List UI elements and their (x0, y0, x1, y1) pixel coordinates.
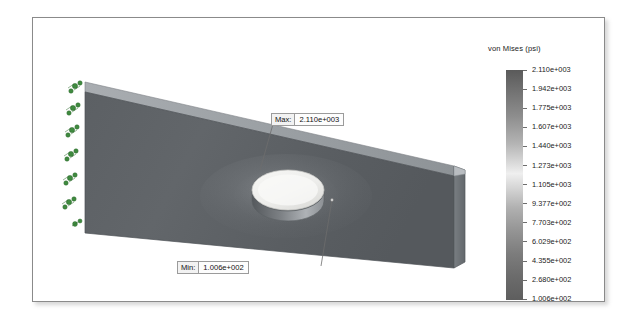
plate-with-hole-model (33, 18, 473, 301)
min-callout[interactable]: Min: 1.006e+002 (177, 261, 249, 274)
max-callout[interactable]: Max: 2.110e+003 (271, 113, 344, 126)
tick-mark-icon (523, 127, 527, 128)
tick-mark-icon (523, 89, 527, 90)
legend-tick-label: 1.105e+003 (532, 180, 571, 189)
tick-mark-icon (523, 108, 527, 109)
legend-tick-label: 1.775e+003 (532, 103, 571, 112)
fixture-restraint-symbols (62, 81, 82, 227)
min-callout-tag: Min: (178, 262, 199, 273)
model-viewport[interactable]: Max: 2.110e+003 Min: 1.006e+002 (33, 18, 473, 301)
tick-mark-icon (523, 203, 527, 204)
legend-tick-label: 9.377e+002 (532, 199, 571, 208)
plate-end-face (454, 166, 465, 268)
tick-mark-icon (523, 165, 527, 166)
legend-tick-label: 4.355e+002 (532, 256, 571, 265)
legend-tick-label: 1.440e+003 (532, 141, 571, 150)
fea-result-panel: Max: 2.110e+003 Min: 1.006e+002 von Mise… (32, 17, 605, 302)
min-callout-value: 1.006e+002 (199, 262, 247, 273)
tick-mark-icon (523, 299, 527, 300)
tick-mark-icon (523, 261, 527, 262)
stress-legend: von Mises (psi) 2.110e+003 1.942e+003 1.… (480, 26, 604, 298)
legend-tick-label: 6.029e+002 (532, 237, 571, 246)
legend-title: von Mises (psi) (488, 44, 541, 53)
tick-mark-icon (523, 70, 527, 71)
tick-mark-icon (523, 280, 527, 281)
max-callout-tag: Max: (272, 114, 295, 125)
colorbar-wrapper: 2.110e+003 1.942e+003 1.775e+003 1.607e+… (506, 70, 523, 300)
tick-mark-icon (523, 184, 527, 185)
legend-tick-label: 1.006e+002 (532, 294, 571, 302)
page-root: Max: 2.110e+003 Min: 1.006e+002 von Mise… (0, 0, 624, 326)
legend-tick-label: 7.703e+002 (532, 218, 571, 227)
tick-mark-icon (523, 241, 527, 242)
legend-tick-label: 1.607e+003 (532, 122, 571, 131)
legend-tick-label: 2.680e+002 (532, 275, 571, 284)
tick-mark-icon (523, 222, 527, 223)
tick-mark-icon (523, 146, 527, 147)
colorbar-gradient (506, 70, 523, 300)
legend-tick-label: 1.942e+003 (532, 84, 571, 93)
center-hole (252, 170, 324, 221)
legend-tick-label: 2.110e+003 (532, 65, 571, 74)
max-callout-value: 2.110e+003 (295, 114, 343, 125)
legend-tick-label: 1.273e+003 (532, 161, 571, 170)
